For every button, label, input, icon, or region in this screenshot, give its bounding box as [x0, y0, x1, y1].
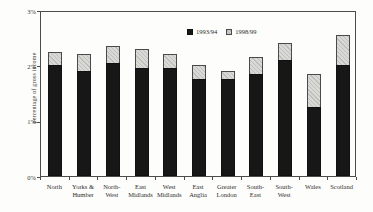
x-tick-label-east-midlands: EastMidlands — [126, 183, 155, 199]
bar-chart-figure: percentage of gross income 1993/94 1998/… — [0, 0, 373, 212]
x-tick-label-line: East — [126, 183, 155, 191]
x-tick-label-yorks-humber: Yorks &Humber — [69, 183, 98, 199]
plot-area: 1993/94 1998/99 — [40, 11, 356, 177]
x-tick-mark — [212, 177, 213, 180]
bar-1993-94-greater-london — [221, 79, 235, 176]
y-tick-mark-1 — [37, 122, 40, 123]
x-tick-label-north: North — [40, 183, 69, 191]
x-tick-label-line: West — [270, 191, 299, 199]
x-tick-label-line: West — [155, 183, 184, 191]
x-tick-label-greater-london: GreaterLondon — [212, 183, 241, 199]
x-tick-mark — [327, 177, 328, 180]
bar-1993-94-west-midlands — [163, 68, 177, 176]
x-tick-label-west-midlands: WestMidlands — [155, 183, 184, 199]
x-tick-mark — [155, 177, 156, 180]
y-tick-mark-3 — [37, 11, 40, 12]
x-tick-label-line: South- — [241, 183, 270, 191]
x-tick-mark — [126, 177, 127, 180]
x-tick-label-line: Wales — [299, 183, 328, 191]
x-tick-label-line: North — [40, 183, 69, 191]
y-tick-label-0: 0% — [14, 174, 36, 181]
bar-1993-94-yorks-humber — [77, 71, 91, 176]
x-tick-label-line: North- — [97, 183, 126, 191]
x-tick-label-line: Humber — [69, 191, 98, 199]
bar-1993-94-scotland — [336, 65, 350, 176]
x-tick-label-line: South- — [270, 183, 299, 191]
x-tick-label-line: Midlands — [155, 191, 184, 199]
x-tick-mark — [299, 177, 300, 180]
x-tick-label-line: West — [97, 191, 126, 199]
x-tick-label-scotland: Scotland — [327, 183, 356, 191]
bar-1993-94-east-anglia — [192, 79, 206, 176]
x-tick-mark — [184, 177, 185, 180]
bar-1993-94-east-midlands — [135, 68, 149, 176]
y-tick-mark-2 — [37, 66, 40, 67]
x-tick-label-east-anglia: EastAnglia — [184, 183, 213, 199]
x-tick-mark — [40, 177, 41, 180]
x-tick-mark — [356, 177, 357, 180]
y-tick-label-1: 1% — [14, 118, 36, 125]
bar-1993-94-wales — [307, 107, 321, 176]
bar-1993-94-north — [48, 65, 62, 176]
x-tick-label-north-west: North-West — [97, 183, 126, 199]
x-tick-mark — [270, 177, 271, 180]
x-tick-label-line: Anglia — [184, 191, 213, 199]
bar-1993-94-north-west — [106, 63, 120, 176]
y-axis-title: percentage of gross income — [31, 28, 37, 148]
x-tick-mark — [241, 177, 242, 180]
x-tick-label-line: London — [212, 191, 241, 199]
x-tick-label-line: East — [184, 183, 213, 191]
x-tick-label-line: Scotland — [327, 183, 356, 191]
x-tick-label-line: East — [241, 191, 270, 199]
x-tick-label-line: Yorks & — [69, 183, 98, 191]
x-tick-mark — [69, 177, 70, 180]
x-tick-label-south-east: South-East — [241, 183, 270, 199]
bars-layer — [41, 12, 355, 176]
x-tick-label-south-west: South-West — [270, 183, 299, 199]
x-tick-label-line: Midlands — [126, 191, 155, 199]
x-tick-label-wales: Wales — [299, 183, 328, 191]
y-tick-label-3: 3% — [14, 8, 36, 15]
x-tick-label-line: Greater — [212, 183, 241, 191]
x-tick-mark — [97, 177, 98, 180]
y-tick-label-2: 2% — [14, 63, 36, 70]
bar-1993-94-south-east — [249, 74, 263, 176]
bar-1993-94-south-west — [278, 60, 292, 176]
